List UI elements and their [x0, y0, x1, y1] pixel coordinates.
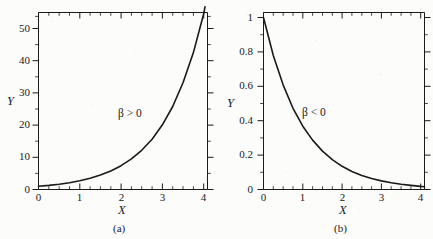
plot-a-ytick-label-30: 30 — [14, 86, 30, 98]
panel-a: 50 40 30 20 10 0 0 1 2 3 4 Y X β > 0 (a) — [0, 0, 216, 239]
plot-b-ytick-label-0-2: 0.2 — [225, 148, 253, 160]
plot-a-right-ticks — [208, 16, 214, 189]
plot-b-right-ticks — [425, 18, 431, 190]
plot-b-caption: (b) — [334, 222, 347, 234]
plot-a-xtick-label-3: 3 — [156, 191, 169, 203]
plot-a-frame — [39, 13, 208, 190]
plot-b-annotation: β < 0 — [302, 106, 326, 118]
plot-a-top-ticks — [39, 13, 204, 19]
plot-a-xtick-label-2: 2 — [115, 191, 128, 203]
plot-b-xtick-label-3: 3 — [375, 191, 388, 203]
plot-a-annotation: β > 0 — [118, 107, 142, 119]
plot-a-canvas — [0, 0, 216, 239]
plot-b-ytick-label-1: 1 — [225, 11, 253, 23]
plot-b-frame — [264, 13, 425, 190]
plot-a-ylabel: Y — [7, 94, 14, 109]
plot-a-xlabel: X — [118, 203, 126, 218]
plot-a-ytick-label-10: 10 — [14, 150, 30, 162]
plot-b-ylabel: Y — [227, 96, 234, 111]
plot-b-xtick-label-0: 0 — [257, 191, 270, 203]
plot-b-ytick-label-0-4: 0.4 — [225, 114, 253, 126]
plot-b-curve — [264, 18, 425, 187]
plot-b-xtick-label-1: 1 — [296, 191, 309, 203]
plot-b-ytick-label-0-8: 0.8 — [225, 45, 253, 57]
panel-b: 1 0.8 0.6 0.4 0.2 0 0 1 2 3 4 Y X β < 0 … — [216, 0, 433, 239]
plot-a-xtick-label-0: 0 — [32, 191, 45, 203]
plot-a-ytick-label-50: 50 — [14, 22, 30, 34]
plot-a-caption: (a) — [113, 222, 125, 234]
plot-b-xlabel: X — [339, 203, 347, 218]
figure-page: 50 40 30 20 10 0 0 1 2 3 4 Y X β > 0 (a) — [0, 0, 433, 239]
plot-a-xtick-label-4: 4 — [197, 191, 210, 203]
plot-b-xtick-label-2: 2 — [336, 191, 349, 203]
plot-b-ytick-label-0: 0 — [225, 183, 253, 195]
plot-b-xtick-label-4: 4 — [414, 191, 427, 203]
plot-a-ytick-label-20: 20 — [14, 118, 30, 130]
plot-b-top-ticks — [264, 13, 421, 19]
plot-b-ytick-label-0-6: 0.6 — [225, 79, 253, 91]
plot-a-curve — [39, 7, 206, 187]
plot-a-ytick-label-40: 40 — [14, 54, 30, 66]
plot-a-ytick-label-0: 0 — [14, 183, 30, 195]
plot-a-xtick-label-1: 1 — [73, 191, 86, 203]
